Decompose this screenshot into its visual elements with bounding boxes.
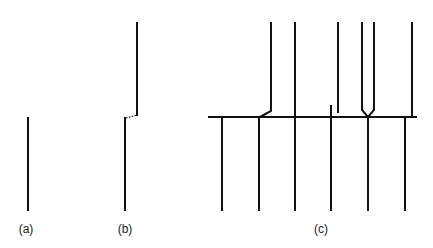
panel-b-lines [125, 22, 137, 211]
panel-label-a: (a) [19, 222, 34, 236]
panel-b-dotted-kink [126, 115, 137, 118]
diagram-canvas [0, 0, 433, 248]
panel-label-c: (c) [314, 222, 328, 236]
panel-c-lines [208, 22, 417, 211]
panel-label-b: (b) [118, 222, 133, 236]
panel-c-v-junction [362, 22, 374, 117]
panel-c-top-line-kinked [260, 22, 271, 117]
